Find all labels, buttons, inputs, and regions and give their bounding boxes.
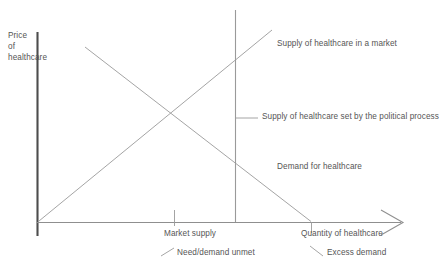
supply-market-curve-label: Supply of healthcare in a market <box>277 39 397 50</box>
price-axis-label: Priceofhealthcare <box>8 30 54 63</box>
price-axis-label-line2: of <box>8 42 15 51</box>
price-axis-label-line1: Price <box>8 31 27 40</box>
need-unmet-leader-line <box>161 248 174 256</box>
supply-market-curve <box>39 30 272 221</box>
need-demand-unmet-annotation-label: Need/demand unmet <box>177 248 255 259</box>
excess-demand-leader-line <box>310 246 323 256</box>
demand-curve <box>85 47 311 222</box>
market-supply-annotation-label: Market supply <box>164 229 216 240</box>
demand-curve-label: Demand for healthcare <box>277 162 362 173</box>
price-axis-label-line3: healthcare <box>8 53 47 62</box>
quantity-axis-label: Quantity of healthcare <box>301 229 383 240</box>
excess-demand-annotation-label: Excess demand <box>327 248 386 259</box>
supply-political-curve-label: Supply of healthcare set by the politica… <box>262 112 439 123</box>
